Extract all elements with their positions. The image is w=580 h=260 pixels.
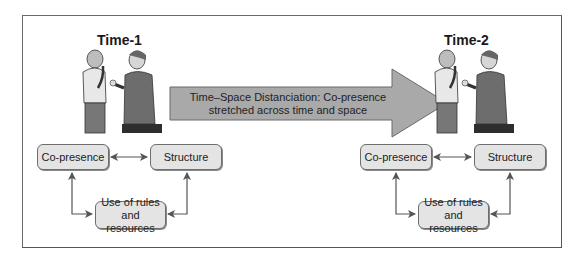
rules-line-1: Use of rules xyxy=(424,196,483,209)
people-talking-icon-time-2 xyxy=(435,50,514,133)
co-presence-box-time-2: Co-presence xyxy=(360,144,432,170)
diagram-graphics xyxy=(0,0,580,260)
co-presence-box-time-1: Co-presence xyxy=(37,144,109,170)
arrow-caption-line-2: stretched across time and space xyxy=(183,104,393,117)
time-1-label: Time-1 xyxy=(97,32,142,48)
rules-line-1: Use of rules xyxy=(101,196,160,209)
people-talking-icon-time-1 xyxy=(83,50,162,133)
time-2-label: Time-2 xyxy=(444,32,489,48)
rules-line-2: and resources xyxy=(96,209,165,235)
structure-box-time-2: Structure xyxy=(474,144,546,170)
arrow-caption: Time–Space Distanciation: Co-presence st… xyxy=(183,91,393,117)
rules-line-2: and resources xyxy=(419,209,488,235)
rules-resources-box-time-2: Use of rules and resources xyxy=(418,201,489,229)
structure-box-time-1: Structure xyxy=(150,144,222,170)
arrow-caption-line-1: Time–Space Distanciation: Co-presence xyxy=(183,91,393,104)
rules-resources-box-time-1: Use of rules and resources xyxy=(95,201,166,229)
